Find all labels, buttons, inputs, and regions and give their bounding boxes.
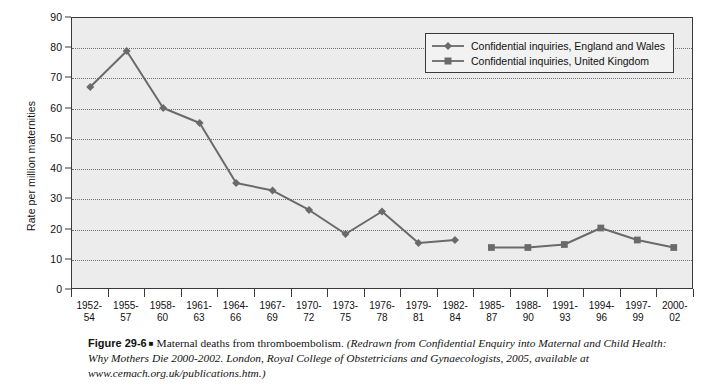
x-tick-mark bbox=[583, 289, 584, 297]
x-tick-mark bbox=[437, 289, 438, 297]
series-line-1 bbox=[491, 228, 673, 247]
data-point-marker bbox=[451, 236, 459, 244]
x-tick-mark bbox=[291, 289, 292, 297]
x-tick-mark bbox=[327, 289, 328, 297]
gridline bbox=[72, 109, 692, 110]
data-point-marker bbox=[561, 241, 568, 248]
legend-label-united-kingdom: Confidential inquiries, United Kingdom bbox=[471, 55, 649, 67]
legend-square-marker-icon bbox=[431, 55, 465, 67]
y-tick-label: 60 bbox=[2, 102, 62, 114]
x-tick-label-line: 02 bbox=[652, 312, 698, 324]
y-tick-label: 0 bbox=[2, 283, 62, 295]
gridline bbox=[72, 260, 692, 261]
gridline bbox=[72, 139, 692, 140]
y-tick-mark bbox=[65, 107, 71, 108]
y-tick-mark bbox=[65, 77, 71, 78]
y-tick-label: 70 bbox=[2, 71, 62, 83]
y-tick-mark bbox=[65, 17, 71, 18]
x-tick-mark bbox=[108, 289, 109, 297]
x-tick-mark bbox=[620, 289, 621, 297]
x-tick-mark bbox=[656, 289, 657, 297]
y-tick-mark bbox=[65, 47, 71, 48]
caption-bullet-icon: ■ bbox=[149, 339, 154, 348]
x-tick-label-line: 2000- bbox=[652, 300, 698, 312]
x-tick-mark bbox=[693, 289, 694, 297]
data-point-marker bbox=[670, 244, 677, 251]
y-tick-mark bbox=[65, 228, 71, 229]
y-tick-mark bbox=[65, 137, 71, 138]
data-point-marker bbox=[488, 244, 495, 251]
gridline bbox=[72, 78, 692, 79]
y-tick-label: 10 bbox=[2, 253, 62, 265]
gridline bbox=[72, 199, 692, 200]
x-tick-mark bbox=[144, 289, 145, 297]
x-tick-mark bbox=[510, 289, 511, 297]
figure-29-6: Rate per million maternities 01020304050… bbox=[0, 0, 712, 385]
y-tick-label: 30 bbox=[2, 192, 62, 204]
x-tick-mark bbox=[473, 289, 474, 297]
y-tick-label: 20 bbox=[2, 223, 62, 235]
y-tick-mark bbox=[65, 168, 71, 169]
x-tick-mark bbox=[400, 289, 401, 297]
y-tick-label: 80 bbox=[2, 41, 62, 53]
x-tick-mark bbox=[71, 289, 72, 297]
gridline bbox=[72, 230, 692, 231]
x-tick-mark bbox=[254, 289, 255, 297]
data-point-marker bbox=[524, 244, 531, 251]
figure-description: Maternal deaths from thromboembolism. bbox=[157, 337, 344, 349]
legend-item-england-wales: Confidential inquiries, England and Wale… bbox=[431, 38, 665, 53]
y-tick-label: 90 bbox=[2, 11, 62, 23]
y-tick-mark bbox=[65, 258, 71, 259]
x-tick-mark bbox=[217, 289, 218, 297]
data-point-marker bbox=[269, 187, 277, 195]
y-tick-mark bbox=[65, 198, 71, 199]
figure-caption: Figure 29-6■Maternal deaths from thrombo… bbox=[88, 336, 688, 380]
x-tick-mark bbox=[181, 289, 182, 297]
legend-item-united-kingdom: Confidential inquiries, United Kingdom bbox=[431, 53, 665, 68]
x-tick-mark bbox=[364, 289, 365, 297]
y-tick-label: 50 bbox=[2, 132, 62, 144]
x-tick-mark bbox=[547, 289, 548, 297]
data-point-marker bbox=[634, 237, 641, 244]
legend-label-england-wales: Confidential inquiries, England and Wale… bbox=[471, 40, 665, 52]
gridline bbox=[72, 169, 692, 170]
legend-diamond-marker-icon bbox=[431, 40, 465, 52]
figure-number: Figure 29-6 bbox=[88, 337, 147, 349]
y-tick-label: 40 bbox=[2, 162, 62, 174]
series-line-0 bbox=[90, 51, 455, 243]
x-tick-label: 2000-02 bbox=[652, 300, 698, 324]
chart-legend: Confidential inquiries, England and Wale… bbox=[425, 33, 674, 73]
chart-area: Rate per million maternities 01020304050… bbox=[0, 0, 712, 336]
